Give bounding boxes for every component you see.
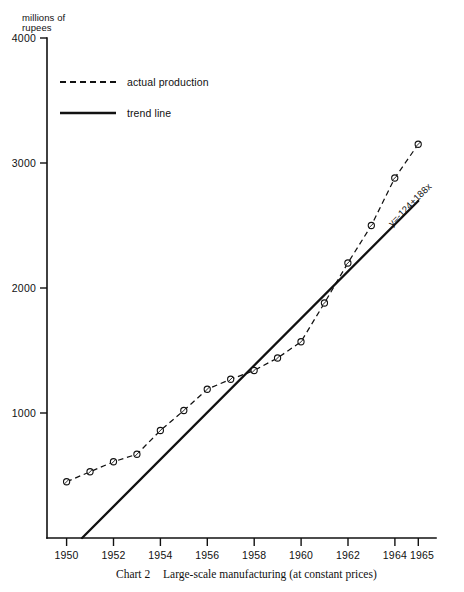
actual-production-markers: [64, 141, 422, 485]
x-tick-label-1954: 1954: [148, 549, 172, 561]
trend-equation-annotation: y=-124+188x: [386, 180, 434, 228]
x-tick-label-1960: 1960: [289, 549, 313, 561]
chart-legend: actual production trend line: [60, 76, 209, 119]
x-tick-label-1956: 1956: [195, 549, 219, 561]
x-axis-ticks: [67, 538, 419, 546]
x-tick-label-1950: 1950: [55, 549, 79, 561]
x-tick-label-1952: 1952: [101, 549, 125, 561]
trend-line-series: [82, 201, 418, 538]
x-tick-label-1965: 1965: [410, 549, 434, 561]
y-axis-tick-labels: 4000 3000 2000 1000: [12, 32, 36, 419]
trend-equation-label: y=-124+188x: [386, 180, 434, 228]
chart-figure: millions of rupees 4000 3000 2000 1000: [0, 0, 464, 592]
x-tick-label-1962: 1962: [336, 549, 360, 561]
y-tick-label-1000: 1000: [12, 407, 36, 419]
y-tick-label-2000: 2000: [12, 282, 36, 294]
caption-text: Large-scale manufacturing (at constant p…: [163, 568, 377, 581]
caption-number: Chart 2: [116, 568, 150, 580]
chart-plot-area: millions of rupees 4000 3000 2000 1000: [0, 0, 464, 592]
legend-label-trend-line: trend line: [127, 107, 171, 119]
chart-caption: Chart 2 Large-scale manufacturing (at co…: [116, 568, 377, 581]
legend-label-actual-production: actual production: [127, 76, 209, 88]
y-axis-ticks: [40, 38, 47, 413]
y-tick-label-3000: 3000: [12, 157, 36, 169]
x-axis-tick-labels: 1950 1952 1954 1956 1958 1960 1962 1964 …: [55, 549, 435, 561]
x-tick-label-1964: 1964: [383, 549, 407, 561]
actual-production-series: [67, 144, 419, 482]
x-tick-label-1958: 1958: [242, 549, 266, 561]
y-tick-label-4000: 4000: [12, 32, 36, 44]
